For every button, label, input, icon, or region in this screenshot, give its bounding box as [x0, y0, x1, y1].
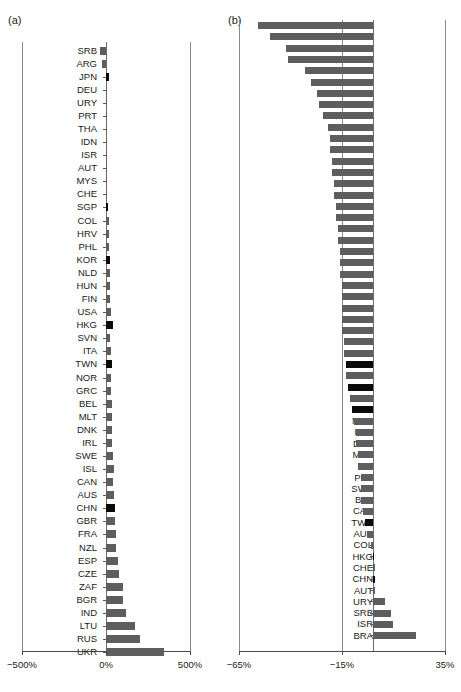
- bar: [334, 180, 373, 187]
- chart-row: UKR: [0, 648, 225, 659]
- category-label: COL: [37, 215, 97, 226]
- x-axis-tick: [22, 651, 23, 655]
- bar: [344, 338, 373, 345]
- chart-row: TWN: [0, 360, 225, 371]
- bar: [106, 73, 109, 81]
- category-label: IND: [37, 607, 97, 618]
- bar: [106, 295, 110, 303]
- category-label: RUS: [37, 633, 97, 644]
- bar: [358, 463, 372, 470]
- chart-row: CHN: [0, 504, 225, 515]
- bar: [270, 33, 373, 40]
- bar: [258, 22, 373, 29]
- chart-row: ISL: [0, 465, 225, 476]
- category-label: SVN: [37, 332, 97, 343]
- chart-row: DEU: [0, 86, 225, 97]
- category-label: MYS: [37, 175, 97, 186]
- bar: [106, 164, 107, 172]
- bar: [373, 553, 374, 560]
- chart-row: HKG: [0, 321, 225, 332]
- bar: [330, 146, 373, 153]
- bar: [106, 112, 107, 120]
- category-label: ISL: [37, 463, 97, 474]
- bar: [106, 256, 110, 264]
- bar: [106, 517, 115, 525]
- category-label: HRV: [37, 228, 97, 239]
- category-label: PHL: [37, 241, 97, 252]
- chart-row: THA: [0, 125, 225, 136]
- bar: [106, 635, 140, 643]
- bar: [106, 269, 110, 277]
- bar: [106, 465, 114, 473]
- category-label: ISR: [313, 618, 373, 629]
- chart-row: COL: [0, 217, 225, 228]
- chart-row: GRC: [0, 387, 225, 398]
- category-label: IDN: [37, 136, 97, 147]
- category-label: UKR: [37, 646, 97, 657]
- chart-row: ARG: [0, 60, 225, 71]
- category-label: PRT: [37, 110, 97, 121]
- bar: [373, 576, 375, 583]
- bar: [106, 504, 115, 512]
- bar: [106, 557, 118, 565]
- bar: [340, 248, 373, 255]
- bar: [330, 135, 373, 142]
- bar: [373, 632, 416, 639]
- bar: [373, 598, 385, 605]
- bar: [346, 372, 373, 379]
- category-label: DNK: [37, 424, 97, 435]
- category-label: BGR: [37, 594, 97, 605]
- bar: [106, 217, 109, 225]
- x-axis-tick: [190, 651, 191, 655]
- chart-row: ISR: [0, 151, 225, 162]
- bar: [365, 519, 373, 526]
- category-label: BRA: [313, 630, 373, 641]
- category-label: COL: [313, 539, 373, 550]
- chart-row: IND: [0, 609, 225, 620]
- panel-a: (a) SRBARGJPNDEUURYPRTTHAIDNISRAUTMYSCHE…: [0, 0, 225, 692]
- panel-b-plot-area: LVAUKRLTUESTISLBGRTURIRLTHAHUNDNKINDSVKC…: [225, 0, 461, 692]
- bar: [373, 621, 394, 628]
- category-label: THA: [37, 123, 97, 134]
- bar: [336, 214, 373, 221]
- bar: [102, 60, 106, 68]
- bar: [373, 587, 375, 594]
- category-label: SRB: [37, 45, 97, 56]
- category-label: KOR: [37, 254, 97, 265]
- bar: [361, 485, 373, 492]
- bar: [106, 530, 116, 538]
- chart-row: BGR: [0, 596, 225, 607]
- bar: [106, 583, 123, 591]
- chart-row: LTU: [0, 622, 225, 633]
- chart-row: IRL: [0, 439, 225, 450]
- chart-row: RUS: [0, 635, 225, 646]
- chart-row: DNK: [0, 426, 225, 437]
- bar: [106, 203, 108, 211]
- category-label: FRA: [37, 528, 97, 539]
- bar: [336, 203, 373, 210]
- bar: [317, 90, 373, 97]
- bar: [106, 138, 107, 146]
- bar: [367, 531, 373, 538]
- category-label: GRC: [37, 385, 97, 396]
- bar: [106, 230, 109, 238]
- chart-row: AUS: [0, 491, 225, 502]
- x-axis-tick: [342, 651, 343, 655]
- category-label: URY: [37, 97, 97, 108]
- chart-row: PRT: [0, 112, 225, 123]
- chart-row: SWE: [0, 452, 225, 463]
- bar: [363, 508, 373, 515]
- bar: [358, 451, 372, 458]
- bar: [106, 491, 114, 499]
- category-label: HKG: [37, 319, 97, 330]
- bar: [100, 47, 106, 55]
- bar: [106, 282, 110, 290]
- bar: [334, 192, 373, 199]
- category-label: DEU: [37, 84, 97, 95]
- chart-row: NOR: [0, 374, 225, 385]
- category-label: FIN: [37, 293, 97, 304]
- category-label: BEL: [37, 398, 97, 409]
- chart-row: FRA: [0, 530, 225, 541]
- chart-row: SRB: [0, 47, 225, 58]
- chart-row: CAN: [0, 478, 225, 489]
